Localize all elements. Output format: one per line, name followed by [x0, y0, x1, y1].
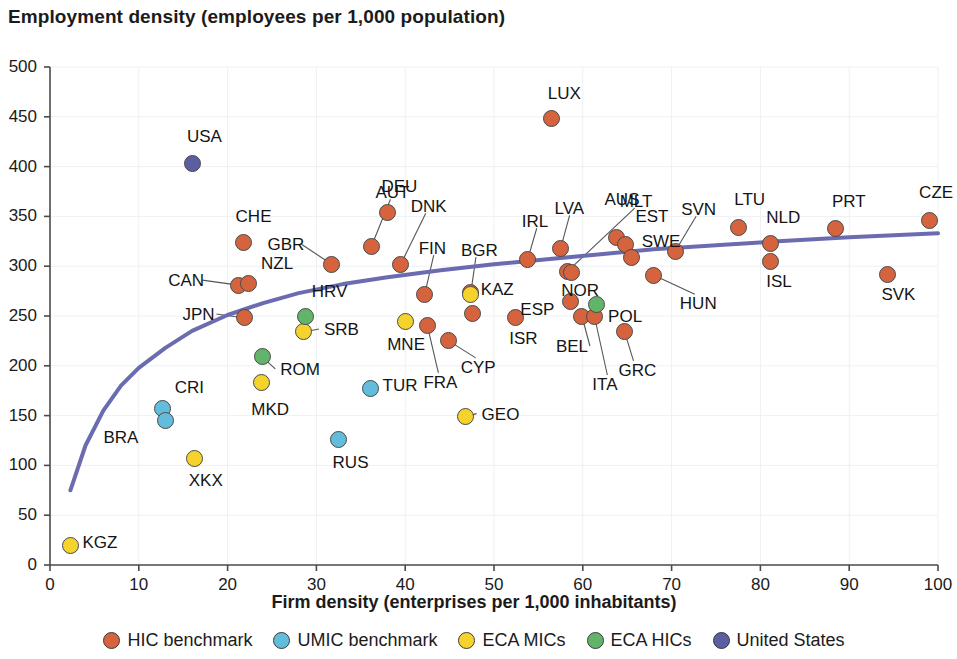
data-point[interactable]: [762, 253, 779, 270]
legend-swatch-icon: [103, 632, 120, 649]
legend-item[interactable]: HIC benchmark: [103, 630, 252, 651]
data-point-label: FRA: [423, 374, 457, 391]
y-tick-label: 50: [0, 505, 37, 525]
data-point[interactable]: [363, 238, 380, 255]
data-point[interactable]: [552, 240, 569, 257]
legend-label: ECA HICs: [611, 630, 692, 651]
legend-item[interactable]: ECA HICs: [587, 630, 692, 651]
y-tick-label: 250: [0, 306, 37, 326]
data-point-label: CHE: [236, 208, 272, 225]
data-point-label: NZL: [261, 255, 293, 272]
data-point[interactable]: [563, 264, 580, 281]
data-point[interactable]: [330, 431, 347, 448]
x-axis-title: Firm density (enterprises per 1,000 inha…: [0, 592, 948, 613]
data-point[interactable]: [519, 251, 536, 268]
data-point-label: KAZ: [481, 281, 514, 298]
data-point-label: HRV: [312, 283, 348, 300]
data-point-label: BRA: [103, 429, 138, 446]
data-point-label: JPN: [182, 306, 214, 323]
data-point-label: DNK: [411, 198, 447, 215]
data-point-label: ITA: [592, 376, 617, 393]
y-tick-label: 400: [0, 157, 37, 177]
data-point-label: CAN: [168, 272, 204, 289]
data-point-label: BGR: [461, 242, 498, 259]
data-point-label: CZE: [919, 184, 953, 201]
data-point-label: POL: [608, 308, 642, 325]
data-point[interactable]: [240, 275, 257, 292]
y-tick-label: 350: [0, 206, 37, 226]
y-tick-label: 0: [0, 555, 37, 575]
data-point[interactable]: [392, 256, 409, 273]
data-point[interactable]: [462, 286, 479, 303]
data-point[interactable]: [879, 266, 896, 283]
data-point-label: ROM: [280, 361, 320, 378]
data-point-label: CRI: [175, 379, 204, 396]
data-point-label: MKD: [251, 401, 289, 418]
data-point-label: FIN: [419, 240, 446, 257]
y-tick-label: 500: [0, 57, 37, 77]
legend-swatch-icon: [713, 632, 730, 649]
data-point-label: GEO: [482, 406, 520, 423]
data-point[interactable]: [416, 286, 433, 303]
data-point-label: IRL: [522, 213, 548, 230]
data-point[interactable]: [379, 204, 396, 221]
y-tick-label: 300: [0, 256, 37, 276]
data-point-label: GBR: [267, 236, 304, 253]
data-point-label: SVK: [881, 286, 915, 303]
axis-ticks: [44, 67, 938, 571]
legend-swatch-icon: [273, 632, 290, 649]
legend-label: UMIC benchmark: [297, 630, 437, 651]
data-point[interactable]: [62, 537, 79, 554]
data-point[interactable]: [323, 256, 340, 273]
data-point-label: XKX: [189, 472, 223, 489]
y-tick-label: 100: [0, 455, 37, 475]
data-point[interactable]: [730, 219, 747, 236]
legend-label: HIC benchmark: [127, 630, 252, 651]
data-point[interactable]: [623, 249, 640, 266]
data-point[interactable]: [464, 305, 481, 322]
data-point-label: NLD: [766, 209, 800, 226]
data-point-label: LUX: [548, 85, 581, 102]
data-point[interactable]: [254, 348, 271, 365]
data-point-label: SRB: [324, 321, 359, 338]
data-point-label: TUR: [383, 377, 418, 394]
data-point-label: NOR: [561, 282, 599, 299]
data-point-label: ISR: [509, 330, 537, 347]
data-point-label: BEL: [556, 338, 588, 355]
data-point[interactable]: [645, 267, 662, 284]
data-point-label: HUN: [680, 295, 717, 312]
data-point-label: EST: [635, 208, 668, 225]
legend-item[interactable]: UMIC benchmark: [273, 630, 437, 651]
data-point-label: AUT: [375, 184, 409, 201]
chart-legend: HIC benchmarkUMIC benchmarkECA MICsECA H…: [0, 630, 948, 651]
data-point[interactable]: [921, 212, 938, 229]
legend-label: United States: [737, 630, 845, 651]
data-point-label: ISL: [766, 273, 792, 290]
data-point[interactable]: [157, 412, 174, 429]
legend-item[interactable]: United States: [713, 630, 845, 651]
legend-item[interactable]: ECA MICs: [458, 630, 565, 651]
data-point-label: CYP: [461, 359, 496, 376]
y-tick-label: 450: [0, 107, 37, 127]
data-point-label: MNE: [387, 336, 425, 353]
data-point-label: AUS: [605, 191, 640, 208]
data-point[interactable]: [253, 374, 270, 391]
data-point-label: SWE: [642, 233, 681, 250]
data-point-label: RUS: [333, 454, 369, 471]
data-point-label: KGZ: [82, 534, 117, 551]
data-point[interactable]: [762, 235, 779, 252]
legend-swatch-icon: [458, 632, 475, 649]
data-point-label: ESP: [520, 301, 554, 318]
y-tick-label: 200: [0, 356, 37, 376]
data-point-label: USA: [187, 128, 222, 145]
legend-swatch-icon: [587, 632, 604, 649]
data-point[interactable]: [235, 234, 252, 251]
data-point-label: LTU: [734, 191, 765, 208]
data-point-label: GRC: [619, 362, 657, 379]
data-point-label: SVN: [681, 201, 716, 218]
legend-label: ECA MICs: [482, 630, 565, 651]
data-point-label: PRT: [832, 193, 866, 210]
